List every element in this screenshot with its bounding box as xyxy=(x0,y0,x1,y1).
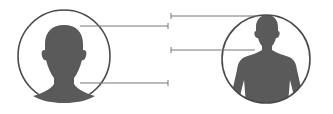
portrait-diagram xyxy=(0,0,333,114)
head-silhouette-icon xyxy=(33,25,95,103)
upper-body-silhouette-icon xyxy=(232,15,302,104)
upper-body-portrait-figure xyxy=(222,15,310,104)
head-portrait-figure xyxy=(18,10,110,103)
